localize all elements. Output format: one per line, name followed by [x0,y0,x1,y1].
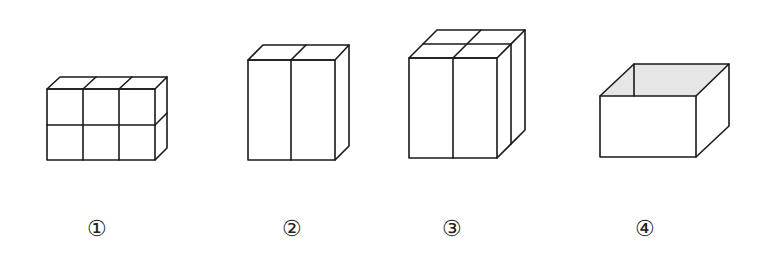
figure-4-label: ④ [632,216,658,242]
figure-1-label: ① [84,216,110,242]
figure-4-open-box [600,64,729,157]
figure-2-label: ② [279,216,305,242]
figure-3-four-prisms [409,30,525,158]
figure-3-label: ③ [439,216,465,242]
figure-1-cube-grid [47,77,167,160]
figure-2-two-prisms [248,45,349,160]
